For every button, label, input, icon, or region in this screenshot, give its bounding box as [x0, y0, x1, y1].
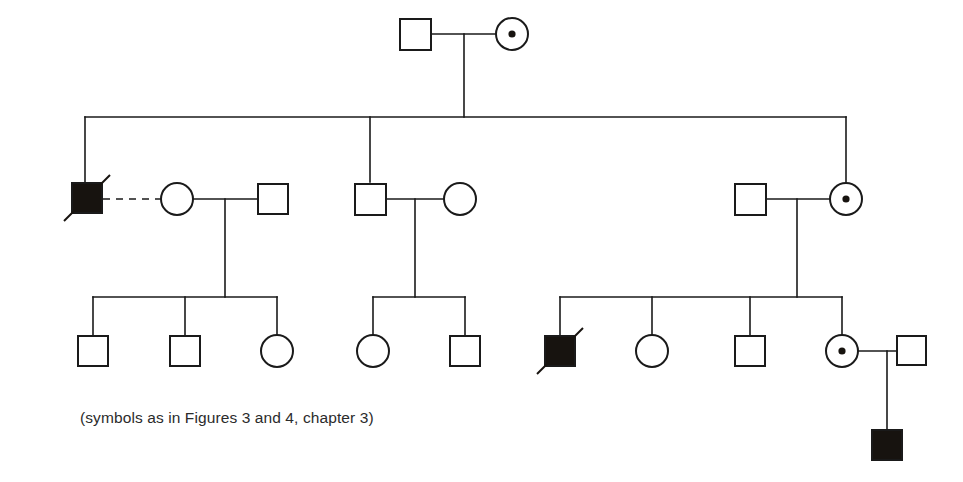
individual-III-10-unaffected-male[interactable] [897, 336, 926, 365]
circle-symbol [636, 335, 668, 367]
deceased-slash-icon [64, 175, 110, 221]
circle-symbol [444, 183, 476, 215]
generation-1-group [400, 18, 528, 117]
individual-III-8-unaffected-male[interactable] [735, 336, 765, 366]
individual-II-2-unaffected-female[interactable] [161, 183, 193, 215]
individual-III-5-unaffected-male[interactable] [450, 336, 480, 366]
square-symbol [170, 336, 200, 366]
individual-III-3-unaffected-female[interactable] [261, 335, 293, 367]
individual-II-8-carrier-female[interactable] [830, 183, 862, 215]
pedigree-figure: (symbols as in Figures 3 and 4, chapter … [0, 0, 963, 482]
generation-2-group [64, 175, 862, 297]
carrier-dot-icon [842, 195, 849, 202]
square-symbol [735, 184, 766, 215]
square-symbol [355, 184, 386, 215]
filled-square-symbol [872, 430, 902, 460]
square-symbol [258, 184, 288, 214]
individual-III-7-unaffected-female[interactable] [636, 335, 668, 367]
individual-III-4-unaffected-female[interactable] [357, 335, 389, 367]
square-symbol [78, 336, 108, 366]
individual-II-4-unaffected-male[interactable] [355, 184, 386, 215]
circle-symbol [161, 183, 193, 215]
square-symbol [450, 336, 480, 366]
individual-I-1-unaffected-male[interactable] [400, 19, 431, 50]
individual-II-7-unaffected-male[interactable] [735, 184, 766, 215]
carrier-dot-icon [838, 347, 845, 354]
figure-caption: (symbols as in Figures 3 and 4, chapter … [80, 409, 374, 427]
individual-II-3-unaffected-male[interactable] [258, 184, 288, 214]
circle-symbol [261, 335, 293, 367]
square-symbol [735, 336, 765, 366]
generation-4-group [872, 430, 902, 460]
square-symbol [897, 336, 926, 365]
individual-IV-1-affected-male[interactable] [872, 430, 902, 460]
sibship-bar-generation-2 [85, 117, 846, 183]
individual-II-5-unaffected-female[interactable] [444, 183, 476, 215]
individual-II-1-affected-deceased-male[interactable] [64, 175, 110, 221]
individual-III-2-unaffected-male[interactable] [170, 336, 200, 366]
sibship-bars-generation-3 [93, 297, 842, 336]
square-symbol [400, 19, 431, 50]
individual-III-9-carrier-female[interactable] [826, 335, 858, 367]
individual-III-1-unaffected-male[interactable] [78, 336, 108, 366]
circle-symbol [357, 335, 389, 367]
individual-I-2-carrier-female[interactable] [496, 18, 528, 50]
carrier-dot-icon [508, 30, 515, 37]
